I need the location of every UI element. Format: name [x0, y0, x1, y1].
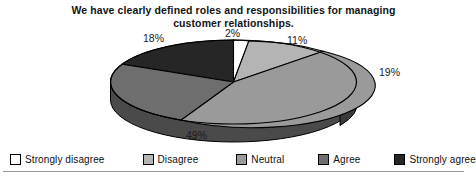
legend-swatch-icon-strongly-disagree [10, 154, 21, 165]
legend-item-strongly-agree[interactable]: Strongly agree [394, 154, 475, 165]
legend-label-neutral: Neutral [251, 154, 284, 165]
legend-item-strongly-disagree[interactable]: Strongly disagree [10, 154, 105, 165]
legend-swatch-icon-strongly-agree [394, 154, 405, 165]
data-label-disagree: 11% [287, 34, 307, 46]
data-label-neutral: 19% [379, 66, 400, 78]
data-label-strongly-agree: 18% [143, 32, 164, 44]
legend-swatch-icon-agree [318, 154, 329, 165]
legend-swatch-icon-disagree [143, 154, 154, 165]
data-label-agree: 49% [186, 129, 207, 141]
legend-label-strongly-disagree: Strongly disagree [25, 154, 105, 165]
legend-label-strongly-agree: Strongly agree [409, 154, 475, 165]
legend-item-agree[interactable]: Agree [318, 154, 360, 165]
legend-label-agree: Agree [333, 154, 360, 165]
chart-legend: Strongly disagree Disagree Neutral Agree… [0, 148, 467, 170]
chart-title-line-1: We have clearly defined roles and respon… [0, 4, 467, 17]
pie-plot-area: 18% 2% 11% 19% 49% [0, 28, 467, 146]
legend-item-disagree[interactable]: Disagree [143, 154, 199, 165]
pie-graphic [0, 28, 467, 146]
legend-label-disagree: Disagree [158, 154, 199, 165]
legend-item-neutral[interactable]: Neutral [236, 154, 284, 165]
legend-swatch-icon-neutral [236, 154, 247, 165]
data-label-strongly-disagree: 2% [225, 27, 240, 39]
legend-separator-rule [3, 171, 464, 172]
